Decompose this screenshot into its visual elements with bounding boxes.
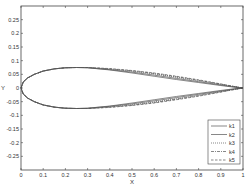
x-tick-label: 0.5 bbox=[128, 172, 136, 178]
legend-label: k4 bbox=[229, 149, 235, 155]
series-k3-line bbox=[21, 68, 243, 109]
y-tick-label: -0.2 bbox=[10, 140, 19, 146]
x-tick-label: 0 bbox=[19, 172, 22, 178]
y-tick-label: 0 bbox=[16, 85, 19, 91]
x-tick-label: 0.3 bbox=[84, 172, 92, 178]
y-axis: 0.250.20.150.10.050-0.05-0.1-0.15-0.2-0.… bbox=[6, 17, 243, 160]
y-axis-label: Y bbox=[1, 85, 5, 91]
y-tick-label: -0.15 bbox=[6, 126, 19, 132]
x-tick-label: 0.6 bbox=[150, 172, 158, 178]
legend: k1k2k3k4k5 bbox=[208, 120, 240, 164]
legend-label: k1 bbox=[229, 123, 235, 129]
legend-label: k2 bbox=[229, 132, 235, 138]
x-tick-label: 0.2 bbox=[62, 172, 70, 178]
y-tick-label: 0.05 bbox=[8, 71, 19, 77]
x-axis-label: X bbox=[130, 179, 134, 185]
legend-box bbox=[208, 120, 240, 164]
x-tick-label: 0.1 bbox=[39, 172, 47, 178]
airfoil-profile-chart: 00.10.20.30.40.50.60.70.80.91 0.250.20.1… bbox=[0, 0, 245, 186]
legend-label: k5 bbox=[229, 157, 235, 163]
x-tick-label: 0.9 bbox=[217, 172, 225, 178]
y-tick-label: -0.1 bbox=[10, 112, 19, 118]
y-tick-label: -0.25 bbox=[6, 153, 19, 159]
x-tick-label: 1 bbox=[241, 172, 244, 178]
legend-label: k3 bbox=[229, 140, 235, 146]
x-tick-label: 0.8 bbox=[195, 172, 203, 178]
y-tick-label: 0.1 bbox=[11, 58, 19, 64]
y-tick-label: 0.25 bbox=[8, 17, 19, 23]
y-tick-label: 0.15 bbox=[8, 44, 19, 50]
y-tick-label: -0.05 bbox=[6, 99, 19, 105]
x-tick-label: 0.4 bbox=[106, 172, 114, 178]
series-k2-line bbox=[21, 68, 243, 109]
series-k4-line bbox=[21, 68, 243, 109]
series-k5-line bbox=[21, 68, 243, 109]
x-tick-label: 0.7 bbox=[173, 172, 181, 178]
y-tick-label: 0.2 bbox=[11, 30, 19, 36]
series-k1-line bbox=[21, 68, 243, 109]
